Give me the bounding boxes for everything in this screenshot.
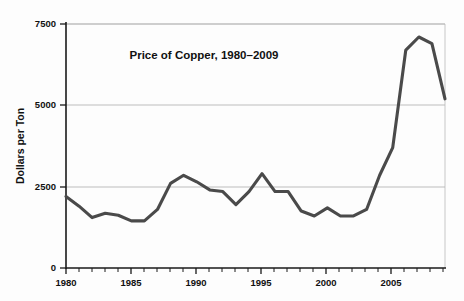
x-tick-label-1980: 1980	[55, 277, 76, 288]
y-axis-label: Dollars per Ton	[14, 108, 26, 184]
y-axis: 7500 5000 2500 0	[35, 18, 66, 273]
chart-title: Price of Copper, 1980–2009	[130, 49, 279, 61]
x-tick-label-2000: 2000	[315, 277, 336, 288]
x-tick-label-1995: 1995	[250, 277, 272, 288]
x-major-ticks	[66, 268, 391, 274]
data-series-copper-price	[66, 37, 445, 221]
y-tick-label-2500: 2500	[35, 181, 56, 192]
x-tick-label-2005: 2005	[380, 277, 402, 288]
x-tick-label-1985: 1985	[120, 277, 142, 288]
copper-price-line-chart: 7500 5000 2500 0 Dollars per Ton	[0, 0, 464, 301]
y-tick-label-7500: 7500	[35, 18, 56, 29]
chart-container: 7500 5000 2500 0 Dollars per Ton	[0, 0, 464, 301]
x-axis: 1980 1985 1990 1995 2000 2005	[55, 268, 446, 288]
y-tick-label-5000: 5000	[35, 99, 56, 110]
x-tick-label-1990: 1990	[185, 277, 206, 288]
y-tick-label-0: 0	[51, 262, 56, 273]
